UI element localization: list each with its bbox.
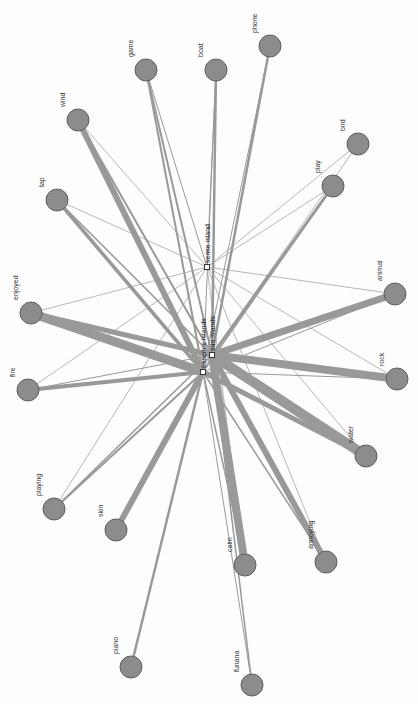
- hub-essence[interactable]: essence islands: [200, 318, 207, 375]
- node-label: wind: [59, 92, 66, 108]
- edge-sense-playing: [54, 267, 207, 509]
- edge-sense-animal: [207, 267, 395, 294]
- node-circle[interactable]: [386, 368, 408, 390]
- node-circle[interactable]: [384, 283, 406, 305]
- node-label: animal: [376, 260, 383, 281]
- node-circle[interactable]: [259, 35, 281, 57]
- edge-sun-wind: [78, 120, 212, 355]
- node-label: water: [347, 425, 354, 444]
- hub-marker[interactable]: [210, 353, 215, 358]
- node-circle[interactable]: [20, 302, 42, 324]
- node-label: bird: [339, 119, 346, 131]
- node-fire[interactable]: fire: [9, 367, 39, 401]
- node-label: fire: [9, 367, 16, 377]
- edge-sun-funana: [212, 355, 252, 685]
- edge-sense-game: [146, 70, 207, 267]
- edge-sense-play: [207, 186, 333, 267]
- edge-sun-game: [146, 70, 212, 355]
- node-tap[interactable]: tap: [38, 177, 68, 211]
- node-circle[interactable]: [67, 109, 89, 131]
- node-label: calm: [226, 537, 233, 552]
- hub-marker[interactable]: [201, 370, 206, 375]
- node-label: funana: [233, 650, 240, 672]
- hub-sense[interactable]: sense island: [204, 224, 211, 270]
- node-circle[interactable]: [105, 519, 127, 541]
- edge-sense-bird: [207, 144, 358, 267]
- node-circle[interactable]: [315, 551, 337, 573]
- edges-layer: [28, 46, 397, 685]
- node-play[interactable]: play: [314, 160, 344, 197]
- hub-sun[interactable]: sun islands: [209, 315, 216, 357]
- node-circle[interactable]: [322, 175, 344, 197]
- node-circle[interactable]: [205, 59, 227, 81]
- node-label: boat: [197, 43, 204, 57]
- node-circle[interactable]: [355, 445, 377, 467]
- node-rock[interactable]: rock: [378, 352, 408, 390]
- node-annoying[interactable]: annoying: [307, 520, 337, 573]
- edge-sun-phone: [212, 46, 270, 355]
- node-skin[interactable]: skin: [97, 504, 127, 541]
- node-circle[interactable]: [120, 656, 142, 678]
- node-label: rock: [378, 352, 385, 366]
- node-bird[interactable]: bird: [339, 119, 369, 155]
- edge-sun-animal: [212, 294, 395, 355]
- node-label: enjoyed: [12, 275, 20, 300]
- edge-essence-piano: [131, 372, 203, 667]
- node-label: playing: [35, 474, 43, 496]
- node-boat[interactable]: boat: [197, 43, 227, 81]
- edge-essence-fire: [28, 372, 203, 390]
- hub-label: sun islands: [209, 315, 216, 351]
- node-circle[interactable]: [43, 498, 65, 520]
- node-label: annoying: [307, 520, 315, 549]
- node-circle[interactable]: [241, 674, 263, 696]
- node-circle[interactable]: [17, 379, 39, 401]
- hub-marker[interactable]: [205, 265, 210, 270]
- node-circle[interactable]: [234, 554, 256, 576]
- node-playing[interactable]: playing: [35, 474, 65, 520]
- node-circle[interactable]: [135, 59, 157, 81]
- hub-label: essence islands: [200, 318, 207, 368]
- node-label: piano: [112, 637, 120, 654]
- node-phone[interactable]: phone: [251, 13, 281, 57]
- node-label: play: [314, 160, 322, 173]
- node-label: game: [127, 39, 135, 57]
- network-graph: gameboatphonewindbirdplaytapenjoyedanima…: [0, 0, 418, 704]
- node-circle[interactable]: [46, 189, 68, 211]
- edge-essence-playing: [54, 372, 203, 509]
- edge-essence-game: [146, 70, 203, 372]
- hub-label: sense island: [204, 224, 211, 263]
- node-label: skin: [97, 504, 104, 517]
- node-game[interactable]: game: [127, 39, 157, 81]
- node-wind[interactable]: wind: [59, 92, 89, 131]
- node-enjoyed[interactable]: enjoyed: [12, 275, 42, 324]
- node-label: phone: [251, 13, 259, 33]
- node-label: tap: [38, 177, 46, 187]
- node-circle[interactable]: [347, 133, 369, 155]
